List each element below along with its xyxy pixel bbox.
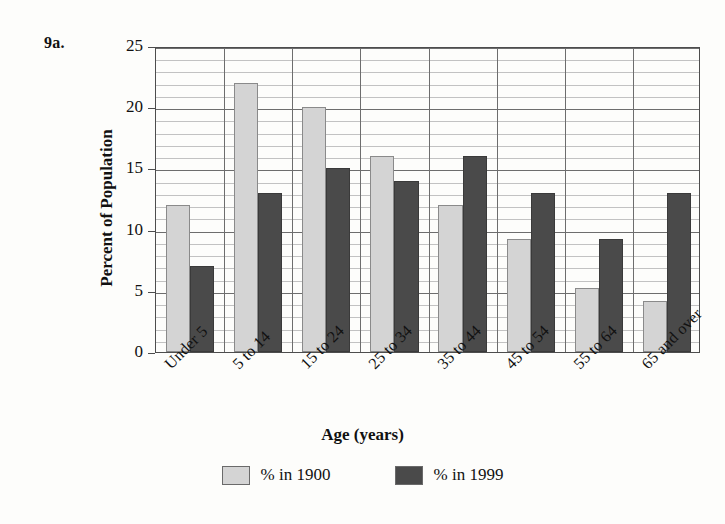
y-tick-label: 10 bbox=[95, 220, 143, 240]
category-separator-line bbox=[565, 48, 566, 352]
bar bbox=[234, 83, 258, 352]
bar bbox=[370, 156, 394, 352]
y-tick-mark bbox=[148, 353, 155, 354]
category-separator-line bbox=[497, 48, 498, 352]
legend-item: % in 1999 bbox=[395, 465, 504, 485]
x-axis-title: Age (years) bbox=[0, 425, 725, 445]
gridline-minor bbox=[156, 60, 699, 61]
y-tick-label: 0 bbox=[95, 342, 143, 362]
legend-item: % in 1900 bbox=[222, 465, 331, 485]
bar bbox=[302, 107, 326, 352]
plot-area bbox=[155, 47, 700, 353]
legend-swatch-icon bbox=[395, 466, 423, 485]
category-separator-line bbox=[429, 48, 430, 352]
y-tick-label: 15 bbox=[95, 158, 143, 178]
chart-legend: % in 1900% in 1999 bbox=[0, 465, 725, 485]
category-separator-line bbox=[633, 48, 634, 352]
figure-container: 9a. Percent of Population 0510152025 Und… bbox=[0, 0, 725, 524]
legend-label: % in 1999 bbox=[434, 465, 504, 485]
y-tick-mark bbox=[148, 169, 155, 170]
y-tick-mark bbox=[148, 292, 155, 293]
y-tick-mark bbox=[148, 47, 155, 48]
gridline-minor bbox=[156, 72, 699, 73]
bar bbox=[438, 205, 462, 352]
legend-swatch-icon bbox=[222, 466, 250, 485]
y-tick-label: 20 bbox=[95, 97, 143, 117]
bar bbox=[463, 156, 487, 352]
category-separator-line bbox=[292, 48, 293, 352]
gridline-major bbox=[156, 48, 699, 49]
y-tick-mark bbox=[148, 108, 155, 109]
y-tick-mark bbox=[148, 231, 155, 232]
y-tick-label: 25 bbox=[95, 36, 143, 56]
figure-number-label: 9a. bbox=[44, 34, 65, 52]
bar bbox=[166, 205, 190, 352]
category-separator-line bbox=[360, 48, 361, 352]
y-tick-label: 5 bbox=[95, 281, 143, 301]
legend-label: % in 1900 bbox=[261, 465, 331, 485]
category-separator-line bbox=[224, 48, 225, 352]
